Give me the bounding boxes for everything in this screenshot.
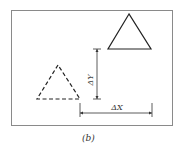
delta-y-label: ΔY: [86, 74, 95, 87]
frame: [12, 11, 173, 126]
figure-caption: (b): [0, 133, 177, 143]
delta-x-label: ΔX: [110, 103, 123, 112]
